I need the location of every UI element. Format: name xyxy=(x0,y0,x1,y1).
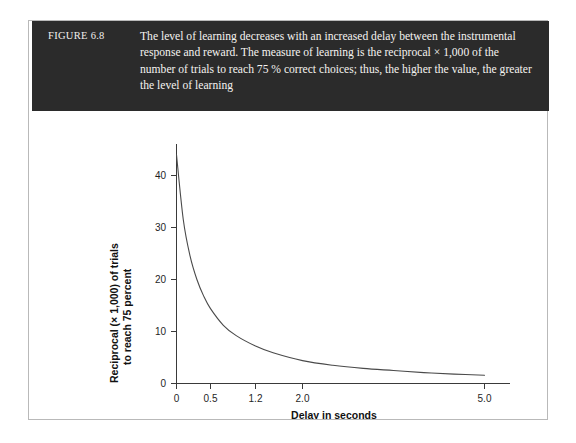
y-axis-title: Reciprocal (× 1,000) of trials to reach … xyxy=(108,243,133,383)
y-axis-title-line2: to reach 75 percent xyxy=(121,268,133,365)
x-tick-label-2-0: 2.0 xyxy=(296,393,310,404)
decay-curve-chart: Reciprocal (× 1,000) of trials to reach … xyxy=(29,111,547,419)
x-tick-label-0-5: 0.5 xyxy=(204,393,218,404)
y-tick-label-20: 20 xyxy=(155,274,167,285)
x-axis-ticks xyxy=(177,384,485,390)
y-tick-label-10: 10 xyxy=(155,326,167,337)
figure-caption-band: FIGURE 6.8 The level of learning decreas… xyxy=(32,21,549,111)
learning-decay-curve xyxy=(177,155,485,375)
y-axis-ticks xyxy=(171,176,177,384)
y-tick-label-30: 30 xyxy=(155,222,167,233)
x-tick-label-1-2: 1.2 xyxy=(249,393,263,404)
x-axis-tick-labels: 0 0.5 1.2 2.0 5.0 xyxy=(174,393,492,404)
y-tick-label-0: 0 xyxy=(160,378,166,389)
figure-number-label: FIGURE 6.8 xyxy=(48,29,140,41)
x-tick-label-0: 0 xyxy=(174,393,180,404)
y-tick-label-40: 40 xyxy=(155,170,167,181)
figure-frame: FIGURE 6.8 The level of learning decreas… xyxy=(28,20,548,420)
x-tick-label-5-0: 5.0 xyxy=(478,393,492,404)
chart-plot-area: Reciprocal (× 1,000) of trials to reach … xyxy=(29,111,547,419)
y-axis-title-line1: Reciprocal (× 1,000) of trials xyxy=(108,243,120,383)
y-axis-tick-labels: 0 10 20 30 40 xyxy=(155,170,167,389)
x-axis-title: Delay in seconds xyxy=(291,409,377,419)
figure-caption-text: The level of learning decreases with an … xyxy=(140,29,535,95)
